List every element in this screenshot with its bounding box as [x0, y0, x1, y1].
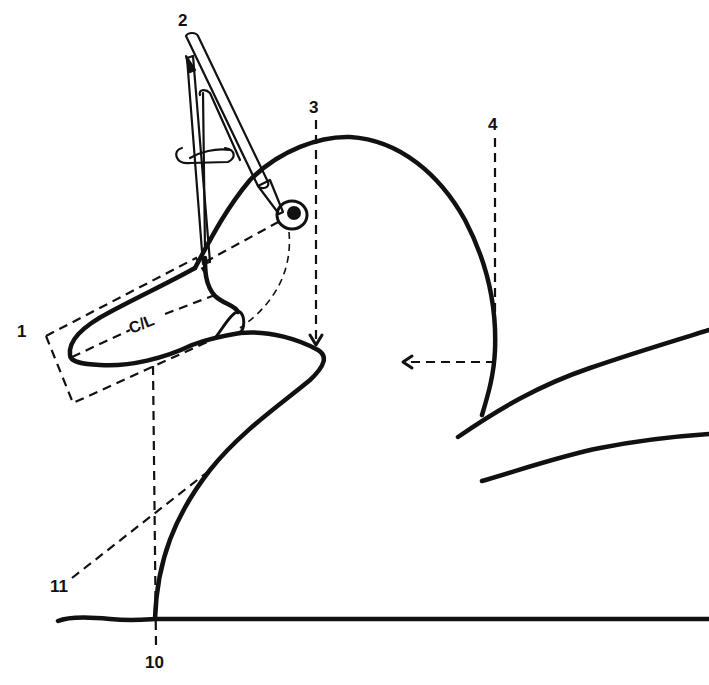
cheek-dashed-curve	[240, 232, 289, 328]
callout-label-3: 3	[309, 98, 318, 117]
callout-label-2: 2	[178, 11, 187, 30]
arrow-left-4	[403, 356, 412, 368]
breast-outline	[155, 332, 324, 619]
callout-label-10: 10	[145, 653, 164, 672]
eye-pupil	[287, 206, 301, 220]
duck-head-diagram: 1 2 3 4 10 11 C/L	[0, 0, 709, 685]
centerline-label: C/L	[126, 311, 156, 337]
reference-line-11	[72, 470, 210, 578]
dividers-tool	[176, 33, 283, 264]
head-outline	[195, 137, 495, 415]
back-line-lower	[482, 434, 709, 481]
callout-label-4: 4	[488, 115, 498, 134]
bill-outline	[70, 268, 240, 365]
callout-label-1: 1	[17, 322, 26, 341]
cheek-outline	[205, 258, 238, 312]
callout-label-11: 11	[50, 577, 68, 596]
